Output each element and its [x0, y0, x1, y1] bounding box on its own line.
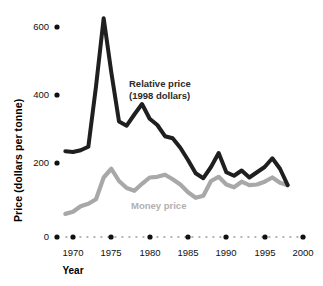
x-tick-dot-1980 [147, 234, 152, 239]
x-axis-ticks: 1970 1975 1980 1985 1990 1995 2000 [62, 234, 313, 258]
x-tick-label-1975: 1975 [100, 247, 121, 258]
x-tick-label-1970: 1970 [62, 247, 83, 258]
annotation-relative-price-line1: Relative price [129, 78, 191, 89]
series-line-relative-price [65, 18, 287, 185]
x-tick-label-1980: 1980 [139, 247, 160, 258]
y-tick-label-600: 600 [33, 21, 49, 32]
y-tick-dot-400 [54, 92, 59, 97]
x-tick-dot-1970 [70, 234, 75, 239]
y-tick-dot-0 [54, 234, 59, 239]
y-tick-dot-600 [54, 24, 59, 29]
x-tick-label-1990: 1990 [215, 247, 236, 258]
y-axis-ticks: 600 400 200 0 [33, 21, 59, 242]
line-chart: Price (dollars per tonne) 600 400 200 0 [0, 0, 323, 286]
x-tick-dot-1990 [223, 234, 228, 239]
y-tick-dot-200 [54, 160, 59, 165]
x-tick-dot-1985 [185, 234, 190, 239]
y-tick-label-200: 200 [33, 157, 49, 168]
annotation-relative-price: Relative price (1998 dollars) [129, 78, 191, 101]
x-tick-dot-1975 [108, 234, 113, 239]
x-axis-label-text: Year [62, 265, 83, 276]
y-axis-label-text: Price (dollars per tonne) [12, 99, 24, 222]
y-tick-label-400: 400 [33, 89, 49, 100]
annotation-relative-price-line2: (1998 dollars) [129, 90, 190, 101]
annotation-money-price: Money price [131, 200, 186, 211]
x-tick-dot-1995 [262, 234, 267, 239]
y-axis-label: Price (dollars per tonne) [12, 99, 24, 222]
x-tick-label-1995: 1995 [254, 247, 275, 258]
x-tick-label-2000: 2000 [292, 247, 313, 258]
y-tick-label-0: 0 [44, 231, 49, 242]
x-tick-dot-2000 [300, 234, 305, 239]
x-tick-label-1985: 1985 [177, 247, 198, 258]
chart-container: Price (dollars per tonne) 600 400 200 0 [0, 0, 323, 286]
